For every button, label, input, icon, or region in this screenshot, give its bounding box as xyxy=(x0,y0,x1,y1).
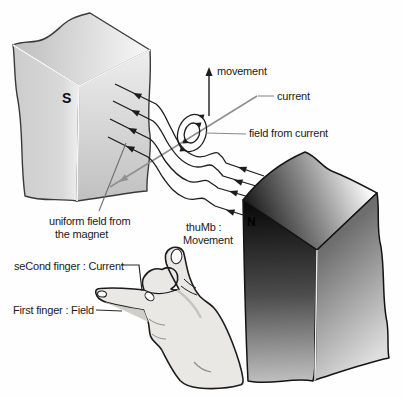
current-label: current xyxy=(277,90,310,102)
index-fingernail xyxy=(97,290,107,297)
field-arrow-icon xyxy=(233,177,243,186)
field-arrow-icon xyxy=(228,188,238,197)
field-from-current-leader xyxy=(206,133,246,134)
field-loop-outer xyxy=(173,111,211,156)
uniform-field-label-line1: uniform field from xyxy=(49,215,130,227)
first-finger-leader xyxy=(96,310,122,311)
second-finger-mnemonic-label: seCond finger : Current xyxy=(14,260,124,272)
second-finger-leader xyxy=(121,265,142,291)
current-field-loops xyxy=(173,111,211,156)
n-pole-label: N xyxy=(247,215,256,229)
field-arrow-icon xyxy=(225,207,235,216)
s-pole-magnet: S xyxy=(13,13,150,201)
thumb-mnemonic-line2: Movement xyxy=(183,234,233,246)
field-arrow-icon xyxy=(237,164,247,173)
field-from-current-label: field from current xyxy=(249,127,328,139)
s-pole-label: S xyxy=(62,90,71,106)
uniform-field-label-line2: the magnet xyxy=(55,228,108,240)
movement-label: movement xyxy=(217,65,267,77)
diagram-svg: S N xyxy=(0,0,403,397)
thumb-mnemonic-line1: thuMb : xyxy=(186,221,221,233)
first-finger-mnemonic-label: First finger : Field xyxy=(13,304,94,316)
movement-arrow xyxy=(206,67,213,116)
movement-arrow-icon xyxy=(206,67,213,76)
fleming-rule-diagram: S N xyxy=(0,0,403,397)
n-pole-magnet: N xyxy=(243,152,389,383)
